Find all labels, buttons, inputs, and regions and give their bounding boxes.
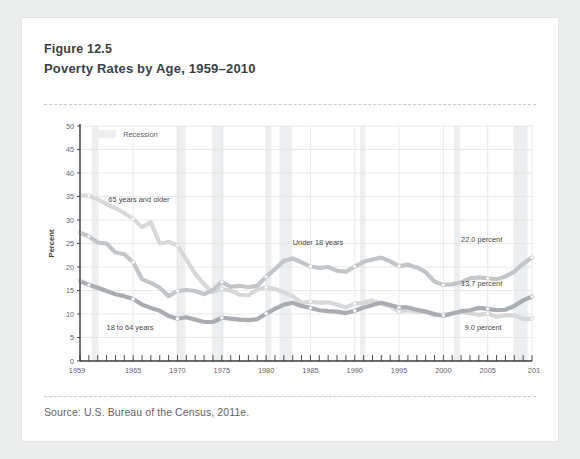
x-tick-label: 1995 xyxy=(391,366,407,375)
data-point-marker xyxy=(486,312,489,315)
data-point-marker xyxy=(397,310,400,313)
poverty-rates-line-chart: 05101520253035404550Percent 195919651970… xyxy=(40,114,540,392)
x-tick-label: 1980 xyxy=(258,366,274,375)
screenshot-root: Figure 12.5 Poverty Rates by Age, 1959–2… xyxy=(0,0,580,459)
series-label: 65 years and older xyxy=(108,195,170,204)
y-tick-label: 20 xyxy=(66,263,74,272)
legend-recession-swatch xyxy=(94,130,116,138)
data-point-marker xyxy=(264,286,267,289)
divider-top xyxy=(44,104,536,105)
data-point-marker xyxy=(87,235,90,238)
x-tick-label: 2005 xyxy=(479,366,495,375)
data-point-marker xyxy=(353,309,356,312)
data-point-marker xyxy=(486,307,489,310)
series-label: Under 18 years xyxy=(293,238,344,247)
y-tick-label: 30 xyxy=(66,216,74,225)
y-tick-label: 15 xyxy=(66,286,74,295)
data-point-marker xyxy=(220,287,223,290)
x-tick-label: 2010 xyxy=(528,366,540,375)
data-point-marker xyxy=(397,306,400,309)
end-value-label: 22.0 percent xyxy=(461,235,502,244)
data-point-marker xyxy=(264,275,267,278)
data-point-marker xyxy=(176,317,179,320)
data-point-marker xyxy=(309,306,312,309)
figure-number: Figure 12.5 xyxy=(44,40,524,58)
y-tick-label: 25 xyxy=(66,239,74,248)
data-point-marker xyxy=(131,297,134,300)
x-tick-label: 1985 xyxy=(302,366,318,375)
y-tick-label: 10 xyxy=(66,310,74,319)
series-line-0 xyxy=(80,196,532,320)
data-point-marker xyxy=(309,265,312,268)
data-point-marker xyxy=(220,316,223,319)
data-point-marker xyxy=(530,295,533,298)
y-tick-label: 5 xyxy=(70,333,74,342)
y-tick-label: 50 xyxy=(66,122,74,131)
x-tick-label: 1959 xyxy=(69,366,85,375)
y-axis-title: Percent xyxy=(47,229,56,257)
chart-svg: 05101520253035404550Percent 195919651970… xyxy=(40,114,540,392)
figure-header: Figure 12.5 Poverty Rates by Age, 1959–2… xyxy=(44,40,524,78)
source-note: Source: U.S. Bureau of the Census, 2011e… xyxy=(44,406,249,418)
divider-bottom xyxy=(44,396,536,397)
legend-recession-label: Recession xyxy=(123,130,158,139)
data-point-marker xyxy=(353,265,356,268)
y-tick-label: 45 xyxy=(66,145,74,154)
x-axis-tick-labels: 1959196519701975198019851990199520002005… xyxy=(69,366,540,375)
y-tick-label: 40 xyxy=(66,169,74,178)
x-tick-label: 2000 xyxy=(435,366,451,375)
data-point-marker xyxy=(131,217,134,220)
data-point-marker xyxy=(353,302,356,305)
data-point-marker xyxy=(131,261,134,264)
data-point-marker xyxy=(176,289,179,292)
series-label: 18 to 64 years xyxy=(107,323,154,332)
x-tick-label: 1965 xyxy=(125,366,141,375)
y-axis-tick-labels: 05101520253035404550Percent xyxy=(47,122,74,366)
data-point-marker xyxy=(530,317,533,320)
series-lines xyxy=(80,196,532,322)
y-tick-label: 35 xyxy=(66,192,74,201)
figure-title: Poverty Rates by Age, 1959–2010 xyxy=(44,59,524,78)
data-point-marker xyxy=(264,312,267,315)
data-point-marker xyxy=(220,280,223,283)
figure-card: Figure 12.5 Poverty Rates by Age, 1959–2… xyxy=(22,18,558,441)
end-value-label: 13.7 percent xyxy=(461,279,502,288)
x-tick-label: 1990 xyxy=(347,366,363,375)
data-point-marker xyxy=(442,314,445,317)
data-point-marker xyxy=(397,264,400,267)
x-tick-label: 1970 xyxy=(169,366,185,375)
data-point-marker xyxy=(442,283,445,286)
chart-legend: Recession xyxy=(94,130,158,139)
end-value-label: 9.0 percent xyxy=(465,323,502,332)
data-point-marker xyxy=(309,300,312,303)
data-point-marker xyxy=(87,283,90,286)
data-point-marker xyxy=(176,244,179,247)
data-point-marker xyxy=(87,194,90,197)
x-tick-label: 1975 xyxy=(214,366,230,375)
data-point-marker xyxy=(530,256,533,259)
y-tick-label: 0 xyxy=(70,357,74,366)
